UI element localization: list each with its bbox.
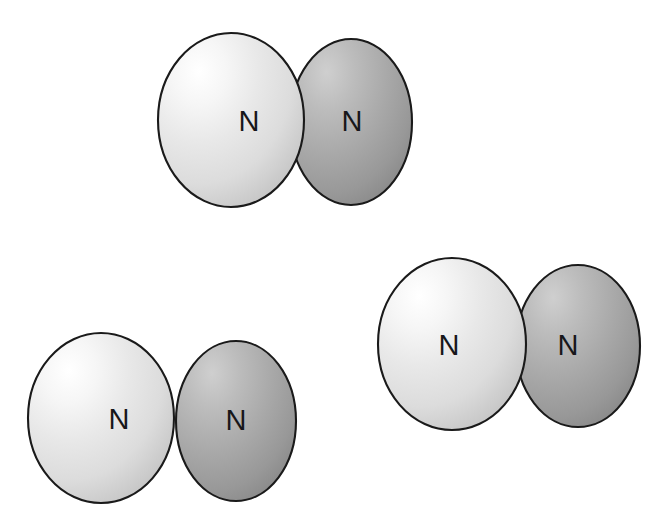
nitrogen-molecule-top: N N (158, 33, 412, 207)
atom-label-n: N (239, 105, 260, 137)
figure-canvas: N N N N N N (0, 0, 664, 525)
atom-sphere-dark: N (176, 341, 296, 501)
atom-label-n: N (109, 403, 130, 435)
nitrogen-molecule-bottom-left: N N (28, 333, 296, 503)
atom-label-n: N (342, 105, 363, 137)
atom-sphere-dark: N (516, 265, 640, 427)
atom-sphere-light: N (378, 258, 526, 430)
atom-label-n: N (226, 404, 247, 436)
atom-label-n: N (439, 329, 460, 361)
atom-sphere-dark: N (290, 39, 412, 205)
atom-label-n: N (558, 329, 579, 361)
atom-body-light (28, 333, 174, 503)
nitrogen-molecule-bottom-right: N N (378, 258, 640, 430)
atom-sphere-light: N (28, 333, 174, 503)
atom-sphere-light: N (158, 33, 304, 207)
atom-body-light (158, 33, 304, 207)
molecule-diagram: N N N N N N (0, 0, 664, 525)
